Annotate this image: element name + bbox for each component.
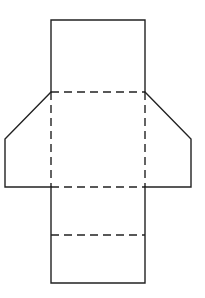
- fold-lines: [51, 92, 145, 235]
- solid-edges: [5, 20, 191, 283]
- top-face-outline: [51, 20, 145, 92]
- left-flap-outline: [5, 92, 51, 187]
- prism-net-diagram: Net of a triangular prism with trapezoid…: [0, 0, 205, 298]
- right-flap-outline: [145, 92, 191, 187]
